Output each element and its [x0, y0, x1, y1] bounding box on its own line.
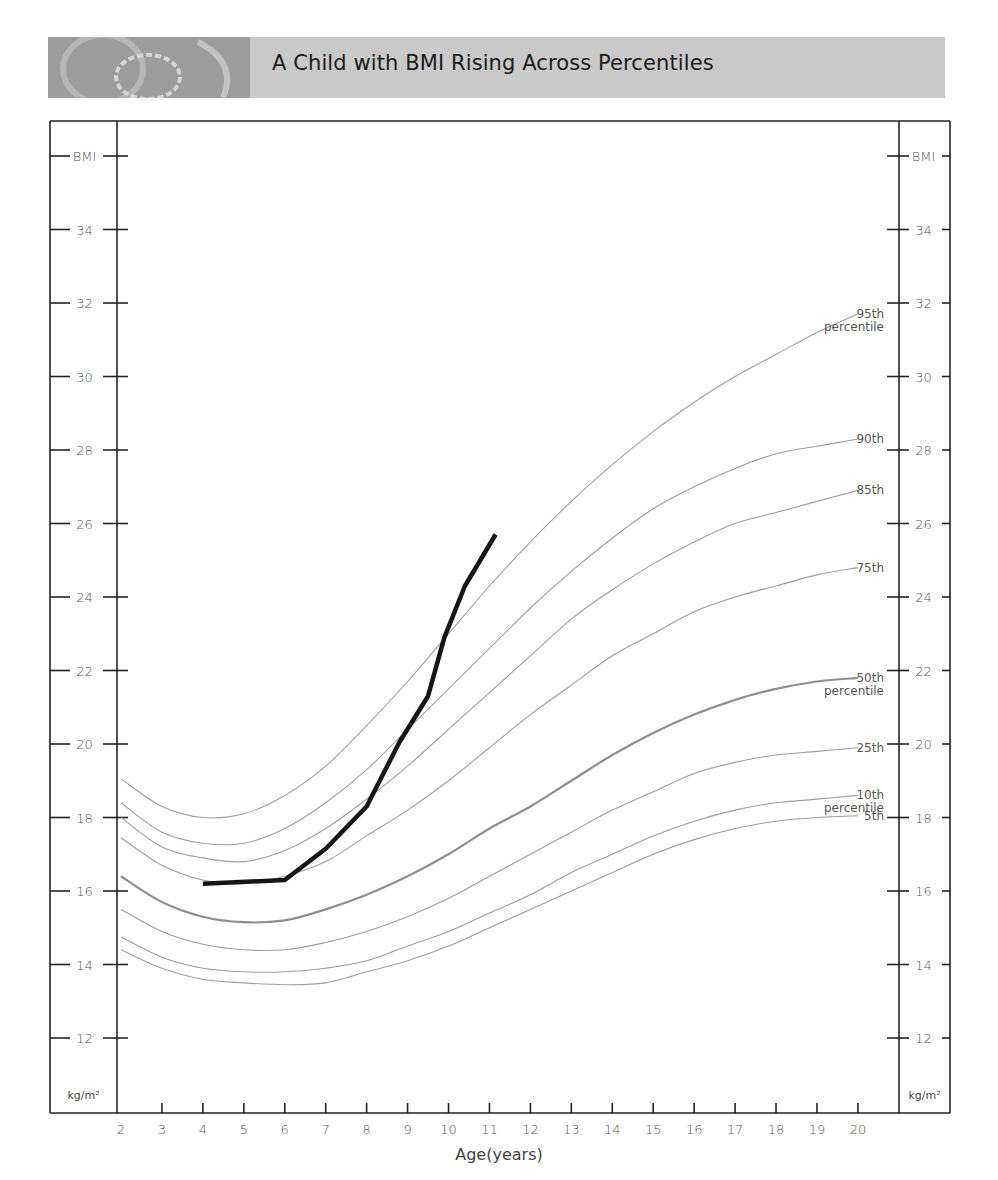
percentile-label: 25th — [856, 741, 884, 755]
y-tick-label-right: 30 — [915, 370, 932, 385]
child-bmi-line — [203, 535, 496, 884]
y-tick-label-left: 30 — [76, 370, 93, 385]
percentile-curve — [121, 439, 858, 845]
y-tick-label-left: 26 — [76, 517, 93, 532]
y-tick-label-left: 22 — [76, 664, 93, 679]
x-tick-label: 17 — [727, 1122, 744, 1137]
x-axis-title: Age(years) — [455, 1145, 542, 1164]
percentile-label: 10th — [856, 788, 884, 802]
x-tick-label: 15 — [645, 1122, 662, 1137]
percentile-curve — [121, 678, 858, 923]
x-tick-label: 5 — [240, 1122, 248, 1137]
percentile-label: 95th — [856, 307, 884, 321]
y-tick-label-left: 16 — [76, 884, 93, 899]
y-tick-label-left: 12 — [76, 1031, 93, 1046]
percentile-label: percentile — [824, 320, 884, 334]
y-tick-label-right: 24 — [915, 590, 932, 605]
y-tick-label-left: BMI — [73, 149, 97, 164]
x-tick-label: 16 — [686, 1122, 703, 1137]
x-tick-label: 10 — [440, 1122, 457, 1137]
percentile-curve — [121, 568, 858, 884]
y-tick-label-right: 34 — [915, 223, 932, 238]
percentile-label: percentile — [824, 684, 884, 698]
y-tick-label-left: 34 — [76, 223, 93, 238]
y-tick-label-left: 14 — [76, 958, 93, 973]
x-tick-label: 4 — [199, 1122, 207, 1137]
percentile-curve — [121, 748, 858, 951]
y-tick-label-right: 18 — [915, 811, 932, 826]
y-tick-label-right: 32 — [915, 296, 932, 311]
x-tick-label: 18 — [768, 1122, 785, 1137]
y-tick-label-right: 20 — [915, 737, 932, 752]
y-tick-label-right: 12 — [915, 1031, 932, 1046]
x-tick-label: 7 — [322, 1122, 330, 1137]
percentile-labels: 95thpercentile90th85th75th50thpercentile… — [824, 307, 884, 823]
y-tick-label-left: 20 — [76, 737, 93, 752]
x-tick-label: 12 — [522, 1122, 539, 1137]
percentile-curve — [121, 816, 858, 985]
x-tick-label: 13 — [563, 1122, 580, 1137]
percentile-label: 5th — [864, 809, 884, 823]
y-tick-label-right: 28 — [915, 443, 932, 458]
y-tick-label-right: BMI — [912, 149, 936, 164]
child-bmi-polyline — [203, 535, 496, 884]
y-tick-label-left: 28 — [76, 443, 93, 458]
x-tick-label: 6 — [281, 1122, 289, 1137]
y-tick-label-right: 16 — [915, 884, 932, 899]
x-tick-label: 14 — [604, 1122, 621, 1137]
x-tick-label: 9 — [403, 1122, 411, 1137]
chart-frame: 1212141416161818202022222424262628283030… — [50, 121, 950, 1137]
x-tick-label: 20 — [850, 1122, 867, 1137]
x-tick-label: 2 — [117, 1122, 125, 1137]
y-unit-right: kg/m² — [908, 1089, 940, 1102]
x-tick-label: 19 — [809, 1122, 826, 1137]
percentile-label: 85th — [856, 483, 884, 497]
y-unit-left: kg/m² — [67, 1089, 99, 1102]
percentile-curve — [121, 314, 858, 818]
y-tick-label-right: 22 — [915, 664, 932, 679]
x-tick-label: 11 — [481, 1122, 498, 1137]
percentile-label: 75th — [856, 561, 884, 575]
x-tick-label: 3 — [158, 1122, 166, 1137]
y-tick-label-right: 26 — [915, 517, 932, 532]
y-tick-label-left: 18 — [76, 811, 93, 826]
y-tick-label-right: 14 — [915, 958, 932, 973]
x-tick-label: 8 — [362, 1122, 370, 1137]
bmi-percentile-chart: 1212141416161818202022222424262628283030… — [0, 0, 998, 1180]
percentile-label: 90th — [856, 432, 884, 446]
percentile-label: 50th — [856, 671, 884, 685]
y-tick-label-left: 32 — [76, 296, 93, 311]
y-tick-label-left: 24 — [76, 590, 93, 605]
